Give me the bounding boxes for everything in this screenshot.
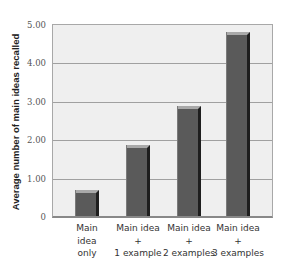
y-tick-label: 0 (41, 212, 46, 222)
bar (178, 106, 201, 216)
category-label-line: 3 examples (203, 247, 273, 260)
bar (227, 32, 250, 216)
bar (76, 190, 99, 216)
y-axis-label: Average number of main ideas recalled (10, 22, 24, 222)
category-label-line: Main idea (203, 222, 273, 235)
y-tick-label: 1.00 (27, 174, 46, 184)
x-category-label: Main idea+3 examples (203, 222, 273, 260)
y-tick-label: 4.00 (27, 58, 46, 68)
bar (127, 145, 150, 216)
y-tick-label: 3.00 (27, 97, 46, 107)
y-tick-label: 2.00 (27, 135, 46, 145)
y-tick-label: 5.00 (27, 20, 46, 30)
category-label-line: + (203, 235, 273, 248)
plot-area (52, 24, 273, 218)
